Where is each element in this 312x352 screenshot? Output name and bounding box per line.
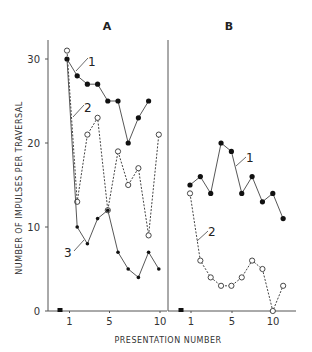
- data-point: [126, 182, 131, 187]
- data-point: [116, 250, 120, 254]
- a-xtick-5: 5: [106, 316, 112, 327]
- data-point: [260, 266, 265, 271]
- data-point: [136, 166, 141, 171]
- data-point: [281, 216, 286, 221]
- data-point: [218, 283, 223, 288]
- data-point: [270, 191, 275, 196]
- data-point: [136, 115, 141, 120]
- data-point: [126, 267, 130, 271]
- data-point: [198, 258, 203, 263]
- data-point: [239, 191, 244, 196]
- x-axis-label: PRESENTATION NUMBER: [114, 336, 221, 345]
- data-point: [115, 98, 120, 103]
- panel-b-curve-labels: 1 2: [197, 151, 254, 241]
- ytick-0: 0: [34, 306, 40, 317]
- baseline-marker: [58, 308, 63, 312]
- b-curve-1-label: 1: [246, 151, 254, 165]
- data-point: [208, 275, 213, 280]
- panel-b-title: B: [225, 20, 233, 33]
- b-curve-2-label: 2: [208, 225, 216, 239]
- b-xtick-10: 10: [267, 316, 280, 327]
- data-point: [115, 149, 120, 154]
- data-point: [187, 191, 192, 196]
- data-point: [147, 250, 151, 254]
- data-point: [75, 225, 79, 229]
- data-point: [95, 115, 100, 120]
- data-point: [281, 283, 286, 288]
- data-point: [270, 308, 275, 313]
- a-xtick-10: 10: [154, 316, 167, 327]
- data-point: [157, 267, 161, 271]
- data-point: [218, 140, 223, 145]
- data-point: [187, 182, 192, 187]
- data-point: [85, 82, 90, 87]
- y-axis-label: NUMBER OF IMPULSES PER TRAVERSAL: [15, 101, 24, 274]
- data-point: [95, 82, 100, 87]
- data-point: [86, 242, 90, 246]
- panel-a-axes: [45, 40, 167, 313]
- panel-b-plot-area: [179, 140, 286, 313]
- chart-figure: A B NUMBER OF IMPULSES PER TRAVERSAL 0 1…: [0, 0, 312, 352]
- data-point: [250, 174, 255, 179]
- data-point: [250, 258, 255, 263]
- data-point: [105, 98, 110, 103]
- panel-a-plot-area: [58, 48, 162, 312]
- data-point: [198, 174, 203, 179]
- b-xtick-1: 1: [188, 316, 194, 327]
- data-point: [229, 283, 234, 288]
- a-curve-3-label: 3: [64, 246, 72, 260]
- b-xtick-5: 5: [229, 316, 235, 327]
- data-point: [126, 140, 131, 145]
- ytick-30: 30: [27, 54, 40, 65]
- data-point: [146, 233, 151, 238]
- data-point: [260, 199, 265, 204]
- data-point: [85, 132, 90, 137]
- series-3-line: [67, 59, 159, 277]
- a-curve-2-label: 2: [84, 101, 92, 115]
- data-point: [156, 132, 161, 137]
- ytick-20: 20: [27, 138, 40, 149]
- data-point: [65, 57, 69, 61]
- data-point: [208, 191, 213, 196]
- data-point: [239, 275, 244, 280]
- series-1-line: [190, 143, 283, 219]
- baseline-marker: [179, 308, 184, 312]
- data-point: [75, 73, 80, 78]
- data-point: [106, 208, 110, 212]
- data-point: [96, 217, 100, 221]
- series-2-line: [190, 193, 283, 311]
- a-curve-1-label: 1: [88, 55, 96, 69]
- data-point: [137, 276, 141, 280]
- data-point: [229, 149, 234, 154]
- data-point: [146, 98, 151, 103]
- panel-a-title: A: [103, 20, 112, 33]
- a-xtick-1: 1: [66, 316, 72, 327]
- data-point: [64, 48, 69, 53]
- ytick-10: 10: [27, 222, 40, 233]
